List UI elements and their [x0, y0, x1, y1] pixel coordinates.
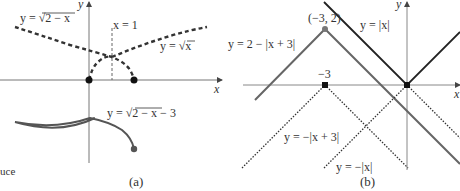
x-axis-label-b: x [453, 87, 460, 101]
abs-x-curve [324, 2, 460, 85]
sqrt-x-curve [89, 27, 207, 80]
point-2-0 [131, 77, 138, 84]
point-vertex [322, 26, 328, 32]
x-axis-label-a: x [213, 82, 220, 96]
neg-abs-curve [324, 85, 460, 168]
sqrt-2-minus-x-curve [15, 27, 134, 80]
shifted-curve [15, 118, 134, 149]
point-origin-b [404, 82, 410, 88]
label-sqrt-x: y = √x [160, 39, 191, 53]
point-2-neg3 [131, 146, 137, 152]
point-neg3-0 [322, 82, 328, 88]
y-axis-label-a: y [77, 0, 84, 11]
label-x-eq-1: x = 1 [113, 18, 138, 32]
caption-a: (a) [129, 174, 143, 189]
point-origin-a [86, 77, 93, 84]
margin-text: uce [0, 165, 15, 177]
panel-a: x y y = √2 − x x = 1 y = √x y = √2 − x −… [0, 0, 222, 189]
label-vertex: (−3, 2) [308, 11, 341, 25]
label-abs-x: y = |x| [360, 18, 390, 32]
caption-b: (b) [360, 174, 375, 189]
label-neg-shift: y = −|x + 3| [284, 130, 339, 144]
label-two-minus: y = 2 − |x + 3| [228, 37, 295, 51]
label-neg-abs: y = −|x| [336, 160, 372, 174]
neg-shift-curve [242, 85, 408, 168]
figure: x y y = √2 − x x = 1 y = √x y = √2 − x −… [0, 0, 460, 191]
label-minus3: −3 [318, 67, 331, 81]
panel-b: x y (−3, 2) y = |x| y = 2 − |x + 3| −3 y… [228, 0, 460, 189]
y-axis-label-b: y [395, 0, 402, 11]
